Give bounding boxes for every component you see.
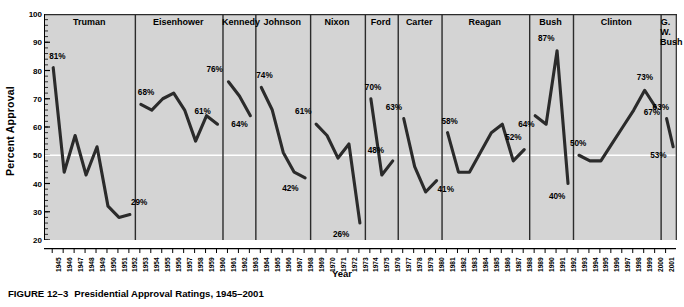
data-point-label: 70%	[365, 83, 381, 92]
president-panel-label: Nixon	[310, 17, 365, 27]
president-panel-label: Clinton	[572, 17, 660, 27]
y-tick-label: 70	[20, 94, 42, 103]
data-point-label: 64%	[231, 120, 247, 129]
data-point-label: 81%	[49, 52, 65, 61]
data-point-label: 48%	[368, 146, 384, 155]
data-point-label: 74%	[256, 71, 272, 80]
y-tick-label: 20	[20, 236, 42, 245]
president-panel-label: Bush	[529, 17, 573, 27]
y-tick-label: 90	[20, 38, 42, 47]
data-point-label: 26%	[333, 230, 349, 239]
data-point-label: 29%	[131, 198, 147, 207]
data-point-label: 61%	[195, 107, 211, 116]
y-tick-label: 40	[20, 179, 42, 188]
data-point-label: 58%	[442, 117, 458, 126]
president-panel-label: Truman	[44, 17, 134, 27]
data-point-label: 68%	[138, 88, 154, 97]
data-point-label: 73%	[637, 73, 653, 82]
data-point-label: 76%	[206, 65, 222, 74]
president-panel-label: G. W.Bush	[660, 17, 671, 47]
data-point-label: 50%	[570, 139, 586, 148]
data-point-label: 52%	[505, 133, 521, 142]
y-tick-label: 100	[20, 10, 42, 19]
figure-caption: FIGURE 12–3Presidential Approval Ratings…	[8, 288, 264, 299]
figure-container: Percent Approval 1009080706050403020 194…	[0, 0, 684, 307]
figure-number: FIGURE 12–3	[8, 288, 68, 299]
president-panel-label: Eisenhower	[134, 17, 222, 27]
data-point-label: 63%	[653, 103, 669, 112]
president-panel-label: Ford	[364, 17, 397, 27]
y-tick-label: 50	[20, 151, 42, 160]
data-point-label: 40%	[549, 192, 565, 201]
president-panel-label: Kennedy	[222, 17, 255, 27]
y-axis-title-text: Percent Approval	[4, 86, 16, 176]
y-tick-label: 30	[20, 207, 42, 216]
president-panel-label: Johnson	[255, 17, 310, 27]
figure-title: Presidential Approval Ratings, 1945–2001	[74, 288, 263, 299]
y-axis-ticks: 1009080706050403020	[18, 0, 42, 307]
y-axis-title: Percent Approval	[2, 38, 18, 224]
data-point-label: 42%	[282, 184, 298, 193]
y-tick-label: 80	[20, 66, 42, 75]
data-point-label: 61%	[295, 107, 311, 116]
data-point-label: 41%	[438, 185, 454, 194]
data-point-label: 63%	[386, 103, 402, 112]
president-panel-label: Reagan	[441, 17, 529, 27]
data-point-label: 87%	[538, 34, 554, 43]
x-axis-title: Year	[0, 268, 684, 279]
data-point-label: 53%	[650, 151, 666, 160]
data-point-label: 64%	[518, 120, 534, 129]
y-tick-label: 60	[20, 123, 42, 132]
president-panel-label: Carter	[397, 17, 441, 27]
